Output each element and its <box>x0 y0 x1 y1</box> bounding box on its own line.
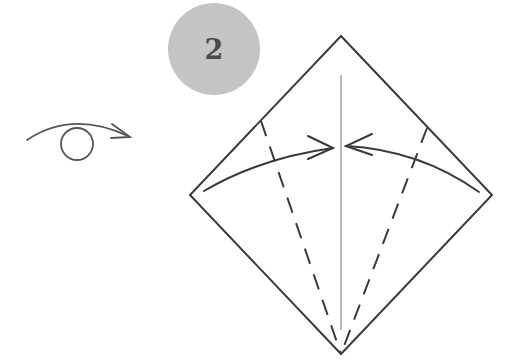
dashed-valley-fold-right <box>341 128 427 354</box>
valley-fold-arrow-right <box>346 134 479 192</box>
diagram-drawing <box>0 0 516 364</box>
origami-diagram: 2 <box>0 0 516 364</box>
turn-over-icon <box>27 124 130 160</box>
dashed-valley-fold-left <box>261 121 341 354</box>
valley-fold-arrow-left <box>204 136 333 191</box>
